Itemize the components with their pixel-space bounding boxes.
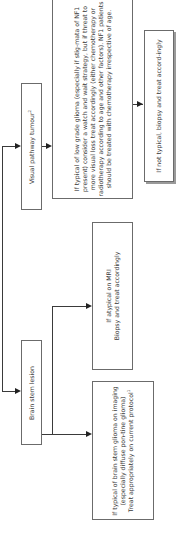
brain-stem-glioma-text: If typical of brain stem glioma on imagi… bbox=[111, 386, 135, 516]
connector-to-visual-pathway bbox=[2, 146, 16, 147]
not-typical-box: If not typical, biopsy and treat accord-… bbox=[144, 30, 174, 182]
brain-stem-lesion-box: Brain stem lesion bbox=[21, 340, 42, 445]
brain-stem-connector-vertical bbox=[52, 306, 53, 434]
atypical-mri-box: If atypical on MRI Biopsy and treat acco… bbox=[92, 222, 133, 370]
not-typical-text: If not typical, biopsy and treat accord-… bbox=[155, 36, 163, 176]
atypical-mri-text: If atypical on MRI Biopsy and treat acco… bbox=[104, 226, 120, 366]
connector-to-brain-stem bbox=[2, 391, 16, 392]
root-connector-vertical bbox=[2, 146, 3, 392]
low-grade-glioma-text: If typical of low grade glioma (especial… bbox=[72, 1, 112, 196]
low-grade-glioma-box: If typical of low grade glioma (especial… bbox=[52, 0, 133, 199]
arrow-to-not-typical-icon bbox=[137, 101, 143, 107]
connector-to-atypical bbox=[52, 306, 86, 307]
brain-stem-lesion-label: Brain stem lesion bbox=[27, 343, 35, 443]
visual-pathway-tumour-box: Visual pathway tumour2 bbox=[21, 83, 42, 210]
visual-pathway-tumour-label: Visual pathway tumour2 bbox=[27, 85, 35, 208]
connector-to-brain-stem-glioma bbox=[42, 434, 86, 435]
brain-stem-glioma-box: If typical of brain stem glioma on imagi… bbox=[92, 381, 154, 520]
